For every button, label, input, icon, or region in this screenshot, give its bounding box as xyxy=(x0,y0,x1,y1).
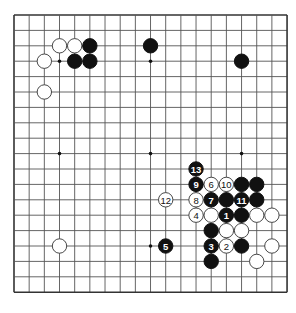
white-stone-icon xyxy=(250,208,264,222)
white-stone-icon xyxy=(37,85,51,99)
white-stone-icon xyxy=(52,39,66,53)
white-stone-icon xyxy=(204,208,218,222)
move-number: 6 xyxy=(209,179,214,190)
black-stone-icon xyxy=(234,239,248,253)
move-number: 10 xyxy=(221,179,232,190)
move-number: 7 xyxy=(209,195,214,206)
star-point xyxy=(240,152,244,156)
star-point xyxy=(149,59,153,63)
black-stone xyxy=(234,208,248,222)
black-stone-move-9: 9 xyxy=(189,177,203,191)
move-number: 5 xyxy=(163,241,169,252)
white-stone-icon xyxy=(219,223,233,237)
white-stone-move-8: 8 xyxy=(189,193,203,207)
black-stone-icon xyxy=(234,177,248,191)
white-stone xyxy=(52,39,66,53)
white-stone-icon xyxy=(234,223,248,237)
white-stone xyxy=(250,254,264,268)
white-stone xyxy=(250,208,264,222)
black-stone-icon xyxy=(250,177,264,191)
white-stone-icon xyxy=(265,239,279,253)
black-stone-icon xyxy=(143,39,157,53)
white-stone-move-4: 4 xyxy=(189,208,203,222)
move-number: 9 xyxy=(193,179,198,190)
white-stone-move-12: 12 xyxy=(159,193,173,207)
black-stone xyxy=(83,54,97,68)
black-stone-move-1: 1 xyxy=(219,208,233,222)
white-stone xyxy=(265,239,279,253)
white-stone-icon xyxy=(67,39,81,53)
black-stone xyxy=(83,39,97,53)
black-stone-icon xyxy=(234,54,248,68)
black-stone-move-5: 5 xyxy=(159,239,173,253)
move-number: 13 xyxy=(191,164,202,175)
black-stone-icon xyxy=(204,223,218,237)
star-point xyxy=(58,152,62,156)
go-board-diagram: 13961012871141532 xyxy=(0,0,296,313)
star-point xyxy=(149,152,153,156)
black-stone xyxy=(143,39,157,53)
black-stone-icon xyxy=(83,54,97,68)
move-number: 4 xyxy=(193,210,198,221)
star-point xyxy=(149,244,153,248)
white-stone xyxy=(204,208,218,222)
white-stone-move-6: 6 xyxy=(204,177,218,191)
black-stone xyxy=(67,54,81,68)
white-stone-icon xyxy=(265,208,279,222)
white-stone-move-2: 2 xyxy=(219,239,233,253)
black-stone xyxy=(234,177,248,191)
go-board: 13961012871141532 xyxy=(0,0,296,313)
star-point xyxy=(58,59,62,63)
move-number: 11 xyxy=(237,195,248,206)
black-stone-move-7: 7 xyxy=(204,193,218,207)
white-stone xyxy=(219,223,233,237)
white-stone xyxy=(52,239,66,253)
black-stone xyxy=(250,193,264,207)
black-stone-icon xyxy=(250,193,264,207)
move-number: 2 xyxy=(224,241,229,252)
black-stone-move-3: 3 xyxy=(204,239,218,253)
black-stone xyxy=(219,193,233,207)
black-stone-icon xyxy=(204,254,218,268)
white-stone xyxy=(67,39,81,53)
black-stone-move-13: 13 xyxy=(189,162,203,176)
move-number: 3 xyxy=(209,241,214,252)
white-stone xyxy=(37,85,51,99)
white-stone-icon xyxy=(37,54,51,68)
white-stone xyxy=(37,54,51,68)
black-stone xyxy=(234,54,248,68)
black-stone-icon xyxy=(219,193,233,207)
black-stone xyxy=(204,254,218,268)
black-stone xyxy=(234,239,248,253)
white-stone xyxy=(265,208,279,222)
white-stone-icon xyxy=(52,239,66,253)
black-stone-icon xyxy=(234,208,248,222)
black-stone xyxy=(204,223,218,237)
black-stone-icon xyxy=(83,39,97,53)
move-number: 12 xyxy=(160,195,171,206)
black-stone xyxy=(250,177,264,191)
white-stone-icon xyxy=(250,254,264,268)
black-stone-move-11: 11 xyxy=(234,193,248,207)
move-number: 1 xyxy=(224,210,230,221)
move-number: 8 xyxy=(193,195,198,206)
black-stone-icon xyxy=(67,54,81,68)
white-stone-move-10: 10 xyxy=(219,177,233,191)
white-stone xyxy=(234,223,248,237)
